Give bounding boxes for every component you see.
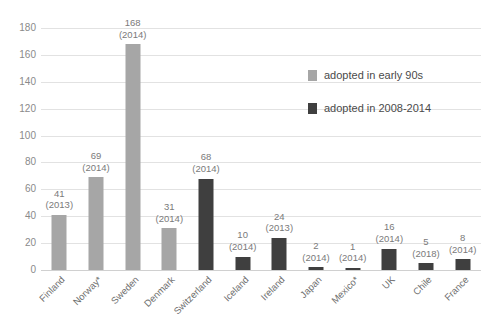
x-axis-tick-label: Finland — [37, 274, 67, 304]
legend-item[interactable]: adopted in 2008-2014 — [308, 103, 431, 114]
x-axis-tick-label: France — [442, 274, 471, 303]
bar-iceland[interactable] — [235, 257, 250, 270]
bar-value-label: 10(2014) — [229, 229, 256, 252]
x-axis-tick-label: Ireland — [259, 274, 287, 302]
x-axis-tick-label: Norway* — [71, 274, 104, 307]
gridline-0 — [41, 270, 481, 271]
bar-slot: 41(2013) — [41, 28, 78, 270]
bar-chart: 180160140120100806040200 41(2013)69(2014… — [0, 0, 487, 327]
y-axis-tick-label: 160 — [19, 50, 36, 60]
y-axis-tick-label: 120 — [19, 104, 36, 114]
bar-slot: 1(2014) — [334, 28, 371, 270]
x-axis-tick-label: Chile — [411, 274, 434, 297]
bar-value-label: 8(2014) — [449, 232, 476, 255]
y-axis-tick-label: 0 — [30, 265, 36, 275]
y-axis-tick-label: 80 — [25, 157, 36, 167]
bar-slot: 168(2014) — [114, 28, 151, 270]
x-axis-tick-label: Iceland — [221, 274, 250, 303]
bar-value-label: 2(2014) — [302, 240, 329, 263]
bar-ireland[interactable] — [272, 238, 287, 270]
y-axis-tick-label: 20 — [25, 238, 36, 248]
bar-slot: 31(2014) — [151, 28, 188, 270]
bar-slot: 2(2014) — [298, 28, 335, 270]
bar-denmark[interactable] — [162, 228, 177, 270]
bar-france[interactable] — [455, 259, 470, 270]
x-axis-tick-label: Sweden — [108, 274, 140, 306]
x-axis-tick-label: Mexico* — [329, 274, 361, 306]
bar-value-label: 24(2013) — [266, 211, 293, 234]
bar-value-label: 31(2014) — [156, 201, 183, 224]
x-axis: FinlandNorway*SwedenDenmarkSwitzerlandIc… — [41, 272, 481, 327]
bar-mexico[interactable] — [345, 268, 360, 270]
x-axis-tick-label: Japan — [298, 274, 324, 300]
bar-slot: 16(2014) — [371, 28, 408, 270]
bar-value-label: 16(2014) — [376, 221, 403, 244]
bar-slot: 8(2014) — [444, 28, 481, 270]
legend-label: adopted in 2008-2014 — [324, 103, 431, 114]
x-axis-tick-label: Denmark — [142, 274, 177, 309]
x-axis-tick-label: UK — [380, 274, 397, 291]
bar-switzerland[interactable] — [198, 179, 213, 270]
bar-finland[interactable] — [52, 215, 67, 270]
bar-slot: 24(2013) — [261, 28, 298, 270]
bar-value-label: 69(2014) — [82, 150, 109, 173]
bar-value-label: 41(2013) — [46, 188, 73, 211]
bar-value-label: 68(2014) — [192, 151, 219, 174]
x-axis-tick-label: Switzerland — [171, 274, 214, 317]
bar-slot: 69(2014) — [78, 28, 115, 270]
bar-value-label: 168(2014) — [119, 17, 146, 40]
bar-uk[interactable] — [382, 249, 397, 271]
y-axis-tick-label: 100 — [19, 131, 36, 141]
legend-swatch-icon — [308, 103, 317, 114]
y-axis-tick-label: 60 — [25, 184, 36, 194]
y-axis-tick-label: 40 — [25, 211, 36, 221]
bar-value-label: 1(2014) — [339, 241, 366, 264]
bar-value-label: 5(2018) — [412, 236, 439, 259]
legend-label: adopted in early 90s — [324, 70, 423, 81]
bar-norway[interactable] — [88, 177, 103, 270]
chart-legend: adopted in early 90sadopted in 2008-2014 — [308, 70, 431, 136]
bar-slot: 68(2014) — [188, 28, 225, 270]
bar-slot: 5(2018) — [408, 28, 445, 270]
legend-item[interactable]: adopted in early 90s — [308, 70, 431, 81]
bars-group: 41(2013)69(2014)168(2014)31(2014)68(2014… — [41, 28, 481, 270]
bar-japan[interactable] — [308, 267, 323, 270]
bar-sweden[interactable] — [125, 44, 140, 270]
bar-chile[interactable] — [418, 263, 433, 270]
y-axis-tick-label: 180 — [19, 23, 36, 33]
y-axis-tick-label: 140 — [19, 77, 36, 87]
legend-swatch-icon — [308, 70, 317, 81]
y-axis: 180160140120100806040200 — [0, 28, 36, 270]
bar-slot: 10(2014) — [224, 28, 261, 270]
